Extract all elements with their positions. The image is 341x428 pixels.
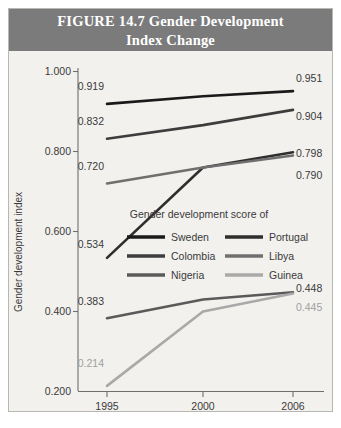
y-tick-label-0200: 0.200: [45, 385, 71, 397]
legend-label-guinea: Guinea: [269, 269, 303, 281]
label-nigeria-start: 0.383: [78, 295, 104, 307]
legend-label-portugal: Portugal: [269, 231, 308, 243]
label-portugal-start: 0.534: [78, 238, 104, 250]
legend-label-sweden: Sweden: [171, 231, 209, 243]
chart-plot-area: Gender development index 1.000 0.800 0.6…: [9, 52, 332, 412]
series-line-sweden: [107, 91, 293, 104]
label-colombia-end: 0.904: [296, 110, 322, 122]
legend-label-nigeria: Nigeria: [171, 269, 204, 281]
label-libya-end: 0.790: [296, 169, 322, 181]
series-line-guinea: [107, 294, 293, 386]
label-guinea-start: 0.214: [78, 357, 104, 369]
figure-title-bar: FIGURE 14.7 Gender Development Index Cha…: [9, 9, 332, 51]
legend-label-colombia: Colombia: [171, 250, 216, 262]
y-tick-label-0800: 0.800: [45, 145, 71, 157]
legend-title: Gender development score of: [130, 208, 268, 220]
label-sweden-end: 0.951: [296, 72, 322, 84]
y-tick-label-0600: 0.600: [45, 225, 71, 237]
figure-container: FIGURE 14.7 Gender Development Index Cha…: [0, 0, 341, 428]
legend-label-libya: Libya: [269, 250, 294, 262]
label-nigeria-end: 0.448: [296, 282, 322, 294]
label-portugal-end: 0.798: [296, 147, 322, 159]
series-line-colombia: [107, 110, 293, 139]
label-colombia-start: 0.832: [78, 115, 104, 127]
label-guinea-end: 0.445: [296, 301, 322, 313]
y-axis-title: Gender development index: [13, 192, 24, 312]
figure-title-line-2: Index Change: [9, 31, 332, 50]
label-sweden-start: 0.919: [78, 80, 104, 92]
x-tick-label-2000: 2000: [191, 400, 215, 412]
y-tick-label-0400: 0.400: [45, 305, 71, 317]
y-tick-label-1000: 1.000: [45, 65, 71, 77]
chart-legend: Gender development score of Sweden Colom…: [127, 208, 308, 281]
line-chart: Gender development index 1.000 0.800 0.6…: [9, 52, 332, 412]
figure-title-line-1: FIGURE 14.7 Gender Development: [9, 12, 332, 31]
label-libya-start: 0.720: [78, 160, 104, 172]
x-tick-label-2006: 2006: [281, 400, 305, 412]
x-tick-label-1995: 1995: [95, 400, 119, 412]
